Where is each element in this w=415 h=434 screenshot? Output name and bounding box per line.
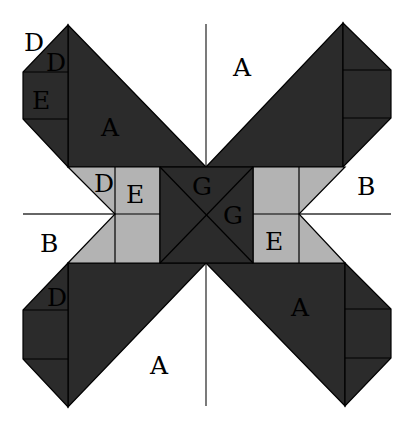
top-right-arm <box>206 23 391 167</box>
label-a-bottom-right: A <box>290 293 310 322</box>
label-e-top-left: E <box>32 86 50 115</box>
label-b-right: B <box>357 172 375 201</box>
piece-a-top-left <box>68 25 206 167</box>
label-a-top-right: A <box>232 53 252 82</box>
label-a-bottom-left: A <box>149 351 169 380</box>
label-d-inner: D <box>46 48 66 77</box>
top-left-arm <box>23 25 206 167</box>
cap-bottom-right <box>345 263 391 406</box>
bottom-right-arm <box>206 263 391 406</box>
quilt-block-diagram: D D E A A D E G G B B E D A A <box>0 0 415 434</box>
piece-a-bottom-left <box>68 263 206 407</box>
label-g-right: G <box>223 201 243 230</box>
label-e-left-gray: E <box>126 180 144 209</box>
label-d-outer: D <box>24 28 44 57</box>
label-g-top: G <box>192 172 212 201</box>
label-d-bottom-left: D <box>47 283 67 312</box>
piece-a-bottom-right <box>206 263 345 406</box>
label-e-right-gray: E <box>265 227 283 256</box>
label-a-top-left: A <box>100 113 120 142</box>
cap-top-right <box>343 23 391 167</box>
label-d-left-gray: D <box>94 169 114 198</box>
piece-a-top-right <box>206 23 343 167</box>
label-b-left: B <box>40 229 58 258</box>
